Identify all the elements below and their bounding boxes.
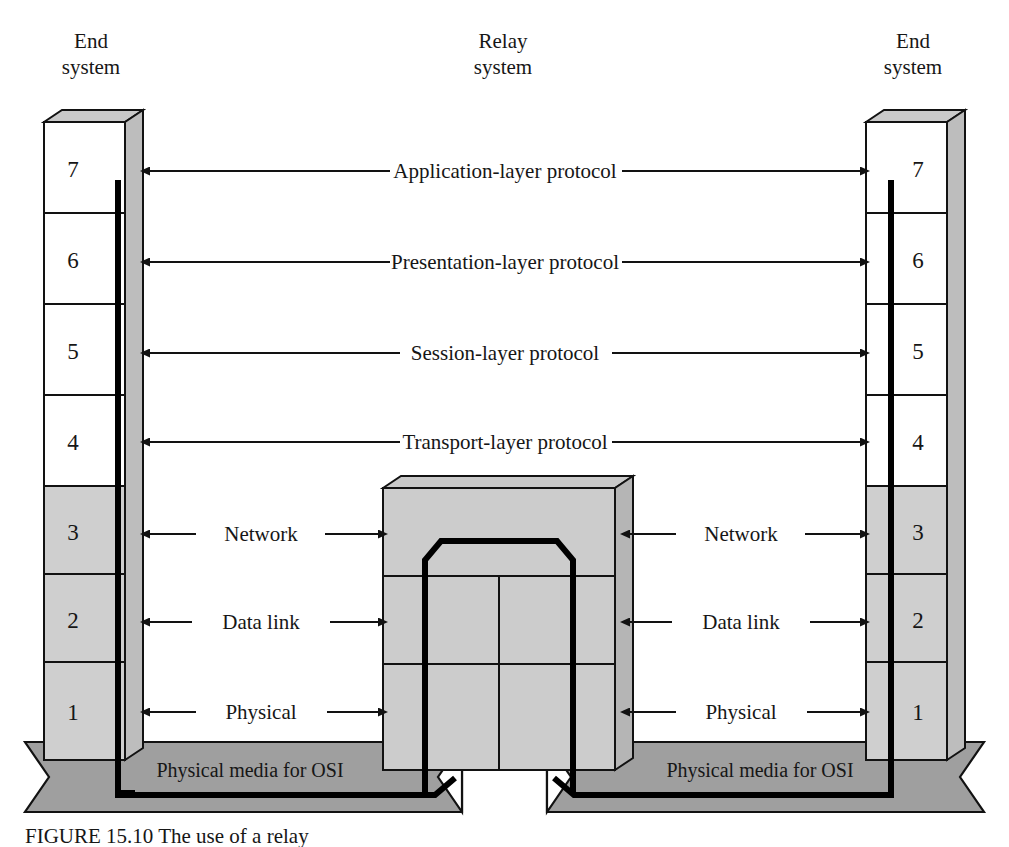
left-layer-number-6: 6 — [67, 248, 79, 273]
right-layer-cell-4 — [866, 395, 947, 486]
right-layer-number-1: 1 — [912, 700, 924, 725]
right-layer-cell-5 — [866, 304, 947, 395]
hop-label-right-physical: Physical — [705, 700, 776, 724]
left-layer-cell-1 — [44, 662, 125, 760]
right-end-system: 7 6 5 4 3 2 1 — [866, 110, 965, 760]
left-layer-cell-5 — [44, 304, 125, 395]
left-layer-number-4: 4 — [67, 430, 79, 455]
left-layer-cell-2 — [44, 574, 125, 662]
header-left-line1: End — [74, 29, 108, 53]
right-layer-number-5: 5 — [912, 339, 924, 364]
hop-label-right-network: Network — [704, 522, 778, 546]
right-layer-cell-6 — [866, 213, 947, 304]
figure-canvas: End system Relay system End system Physi… — [0, 0, 1009, 847]
right-layer-cell-1 — [866, 662, 947, 760]
header-left-line2: system — [62, 55, 120, 79]
right-layer-number-7: 7 — [912, 157, 924, 182]
osi-relay-diagram: End system Relay system End system Physi… — [0, 0, 1009, 847]
left-layer-cell-6 — [44, 213, 125, 304]
protocol-label-transport: Transport-layer protocol — [402, 430, 607, 454]
left-layer-number-3: 3 — [67, 520, 79, 545]
right-layer-number-4: 4 — [912, 430, 924, 455]
relay-system-box — [383, 476, 633, 770]
right-layer-number-3: 3 — [912, 520, 924, 545]
header-right-line2: system — [884, 55, 942, 79]
banner-left-label: Physical media for OSI — [156, 759, 343, 782]
right-layer-cell-2 — [866, 574, 947, 662]
right-layer-number-6: 6 — [912, 248, 924, 273]
right-layer-number-2: 2 — [912, 608, 924, 633]
right-layer-cell-3 — [866, 486, 947, 574]
left-layer-cell-4 — [44, 395, 125, 486]
header-right-line1: End — [896, 29, 930, 53]
hop-label-left-physical: Physical — [225, 700, 296, 724]
left-layer-number-2: 2 — [67, 608, 79, 633]
left-layer-cell-7 — [44, 122, 125, 213]
left-end-system: 7 6 5 4 3 2 1 — [44, 110, 143, 760]
figure-caption: FIGURE 15.10 The use of a relay — [25, 824, 309, 847]
left-layer-cell-3 — [44, 486, 125, 574]
protocol-label-presentation: Presentation-layer protocol — [391, 250, 619, 274]
hop-label-right-datalink: Data link — [702, 610, 780, 634]
right-layer-cell-7 — [866, 122, 947, 213]
header-center-line1: Relay — [479, 29, 528, 53]
header-center-line2: system — [474, 55, 532, 79]
banner-right-label: Physical media for OSI — [666, 759, 853, 782]
protocol-label-session: Session-layer protocol — [411, 341, 600, 365]
hop-label-left-datalink: Data link — [222, 610, 300, 634]
left-layer-number-1: 1 — [67, 700, 79, 725]
left-layer-number-7: 7 — [67, 157, 79, 182]
protocol-label-application: Application-layer protocol — [393, 159, 617, 183]
hop-label-left-network: Network — [224, 522, 298, 546]
left-layer-number-5: 5 — [67, 339, 79, 364]
